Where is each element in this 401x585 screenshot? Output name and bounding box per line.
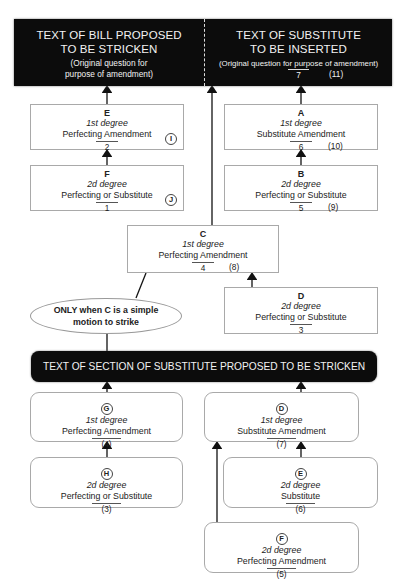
- bill-title-line1: TEXT OF BILL PROPOSED: [14, 28, 204, 42]
- bill-title-line2: TO BE STRICKEN: [14, 42, 204, 56]
- box-degree: 2d degree: [31, 480, 182, 491]
- box-kind: Perfecting Amendment: [31, 129, 183, 140]
- condition-ellipse: ONLY when C is a simple motion to strike: [30, 298, 182, 334]
- box-degree: 1st degree: [31, 118, 183, 129]
- box-paren-number: (9): [328, 202, 338, 212]
- circled-letter-f-icon: F: [276, 533, 288, 545]
- box-kind: Perfecting Amendment: [205, 556, 358, 567]
- bill-text-stricken-panel: TEXT OF BILL PROPOSED TO BE STRICKEN (Or…: [14, 19, 204, 86]
- box-paren-number: (8): [229, 262, 239, 272]
- box-letter: A: [225, 108, 377, 118]
- box-number: 1: [96, 202, 119, 213]
- box-f-perfecting-amendment: F 2d degree Perfecting Amendment (5): [204, 522, 359, 573]
- substitute-number-row: 7 (11): [205, 69, 392, 80]
- box-kind: Perfecting Amendment: [31, 426, 182, 437]
- box-kind: Perfecting or Substitute: [31, 491, 182, 502]
- ellipse-rest: is a simple: [111, 305, 158, 315]
- circled-letter-i-icon: I: [165, 133, 177, 145]
- box-letter: C: [128, 229, 278, 239]
- box-number: (4): [92, 438, 120, 449]
- box-a-substitute-amendment: A 1st degree Substitute Amendment 6 (10): [224, 104, 378, 150]
- circled-letter-d-icon: D: [276, 403, 288, 415]
- circled-letter-j-icon: J: [165, 194, 177, 206]
- box-number: 3: [290, 324, 313, 335]
- ellipse-line2: motion to strike: [31, 316, 181, 328]
- box-c-perfecting-amendment: C 1st degree Perfecting Amendment 4 (8): [127, 225, 279, 273]
- box-degree: 2d degree: [31, 179, 183, 190]
- box-number: (5): [267, 568, 295, 579]
- box-number: 4: [192, 262, 215, 273]
- box-letter: F: [31, 169, 183, 179]
- box-degree: 1st degree: [31, 415, 182, 426]
- box-degree: 2d degree: [205, 545, 358, 556]
- box-d-perfecting-or-substitute: D 2d degree Perfecting or Substitute 3: [224, 287, 378, 334]
- box-degree: 2d degree: [225, 301, 377, 312]
- box-letter: B: [225, 169, 377, 179]
- bill-note-line1: (Original question for: [14, 58, 204, 69]
- box-degree: 2d degree: [225, 179, 377, 190]
- box-degree: 1st degree: [128, 239, 278, 250]
- box-degree: 1st degree: [225, 118, 377, 129]
- top-text-box: TEXT OF BILL PROPOSED TO BE STRICKEN (Or…: [14, 19, 392, 86]
- box-number: 6: [290, 141, 313, 152]
- bill-note-line2: purpose of amendment): [14, 69, 204, 80]
- box-g-perfecting-amendment: G 1st degree Perfecting Amendment (4): [30, 392, 183, 442]
- ellipse-when: when: [77, 305, 104, 315]
- box-e-substitute: E 2d degree Substitute (6): [223, 457, 378, 508]
- box-e-perfecting-amendment: E 1st degree Perfecting Amendment 2 I: [30, 104, 184, 150]
- box-paren-number: (10): [328, 141, 343, 151]
- box-degree: 2d degree: [224, 480, 377, 491]
- box-number: 2: [96, 141, 119, 152]
- substitute-text-inserted-panel: TEXT OF SUBSTITUTE TO BE INSERTED (Origi…: [205, 19, 392, 86]
- box-degree: 1st degree: [205, 415, 358, 426]
- box-number: 5: [290, 202, 313, 213]
- box-kind: Perfecting or Substitute: [225, 190, 377, 201]
- box-number: (3): [92, 503, 120, 514]
- box-number: (6): [286, 503, 314, 514]
- section-stricken-bar: TEXT OF SECTION OF SUBSTITUTE PROPOSED T…: [31, 351, 377, 382]
- substitute-title-line1: TEXT OF SUBSTITUTE: [205, 28, 392, 42]
- substitute-paren-number: (11): [329, 69, 343, 79]
- box-letter: E: [31, 108, 183, 118]
- box-f-perfecting-or-substitute: F 2d degree Perfecting or Substitute 1 J: [30, 165, 184, 211]
- ellipse-only: ONLY: [54, 305, 77, 315]
- ellipse-line1: ONLY when C is a simple: [31, 304, 181, 316]
- box-d-substitute-amendment: D 1st degree Substitute Amendment (7): [204, 392, 359, 442]
- box-b-perfecting-or-substitute: B 2d degree Perfecting or Substitute 5 (…: [224, 165, 378, 211]
- substitute-title-line2: TO BE INSERTED: [205, 42, 392, 56]
- box-kind: Perfecting Amendment: [128, 250, 278, 261]
- box-kind: Perfecting or Substitute: [31, 190, 183, 201]
- circled-letter-h-icon: H: [101, 468, 113, 480]
- box-number: (7): [267, 438, 295, 449]
- substitute-number: 7: [288, 69, 309, 80]
- box-kind: Perfecting or Substitute: [225, 312, 377, 323]
- substitute-note: (Original question for purpose of amendm…: [205, 58, 392, 69]
- box-kind: Substitute Amendment: [205, 426, 358, 437]
- circled-letter-e-icon: E: [295, 468, 307, 480]
- box-kind: Substitute: [224, 491, 377, 502]
- box-kind: Substitute Amendment: [225, 129, 377, 140]
- box-letter: D: [225, 291, 377, 301]
- box-h-perfecting-or-substitute: H 2d degree Perfecting or Substitute (3): [30, 457, 183, 508]
- circled-letter-g-icon: G: [101, 403, 113, 415]
